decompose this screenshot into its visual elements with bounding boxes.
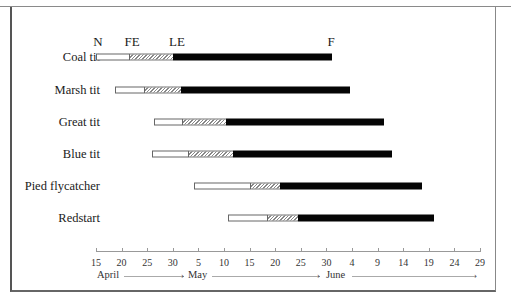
june-arrow-line: [352, 276, 476, 277]
april-arrow-line: [124, 276, 184, 277]
coal-tit-incubation-segment: [173, 54, 332, 61]
row-label-marsh-tit: Marsh tit: [55, 83, 100, 98]
marsh-tit-incubation-segment: [181, 87, 350, 94]
x-tick: [147, 248, 148, 252]
great-tit-incubation-segment: [226, 119, 384, 126]
month-label-june: June: [326, 269, 345, 280]
row-label-great-tit: Great tit: [59, 115, 100, 130]
may-arrow-head-icon: ›: [317, 270, 320, 280]
great-tit-nest-building-segment: [154, 119, 183, 126]
x-tick-label: 20: [270, 257, 280, 268]
pied-flycatcher-nest-building-segment: [194, 183, 251, 190]
x-tick-label: 25: [142, 257, 152, 268]
phase-label-le: LE: [169, 34, 185, 50]
x-tick: [454, 248, 455, 252]
redstart-laying-segment: [268, 215, 298, 222]
blue-tit-nest-building-segment: [152, 151, 189, 158]
x-tick-label: 15: [245, 257, 255, 268]
row-label-pied-flycatcher: Pied flycatcher: [25, 179, 100, 194]
marsh-tit-nest-building-segment: [115, 87, 145, 94]
phase-label-n: N: [93, 34, 102, 50]
blue-tit-incubation-segment: [233, 151, 392, 158]
x-tick: [403, 248, 404, 252]
marsh-tit-laying-segment: [145, 87, 181, 94]
month-label-april: April: [97, 269, 119, 280]
x-tick-label: 29: [475, 257, 485, 268]
row-label-coal-tit: Coal tit: [63, 50, 100, 65]
x-tick-label: 25: [296, 257, 306, 268]
coal-tit-laying-segment: [130, 54, 173, 61]
x-tick: [326, 248, 327, 252]
x-tick-label: 20: [117, 257, 127, 268]
phase-label-f: F: [327, 34, 334, 50]
x-tick: [352, 248, 353, 252]
blue-tit-laying-segment: [189, 151, 233, 158]
x-tick-label: 10: [219, 257, 229, 268]
x-tick-label: 15: [91, 257, 101, 268]
x-tick: [378, 248, 379, 252]
x-tick-label: 19: [424, 257, 434, 268]
x-tick: [198, 248, 199, 252]
chart-plot-area: N FE LE F Coal tit Marsh tit Great tit B…: [0, 0, 511, 308]
pied-flycatcher-laying-segment: [251, 183, 280, 190]
row-label-blue-tit: Blue tit: [63, 147, 100, 162]
phase-label-fe: FE: [124, 34, 139, 50]
great-tit-laying-segment: [183, 119, 226, 126]
x-tick: [173, 248, 174, 252]
may-arrow-line: [212, 276, 320, 277]
x-tick: [275, 248, 276, 252]
x-tick: [480, 248, 481, 252]
redstart-nest-building-segment: [228, 215, 268, 222]
x-tick-label: 14: [398, 257, 408, 268]
x-tick-label: 5: [196, 257, 201, 268]
x-tick-label: 30: [321, 257, 331, 268]
pied-flycatcher-incubation-segment: [280, 183, 422, 190]
x-tick-label: 9: [375, 257, 380, 268]
redstart-incubation-segment: [298, 215, 434, 222]
x-axis-line: [96, 251, 480, 252]
x-tick-label: 4: [350, 257, 355, 268]
x-tick: [429, 248, 430, 252]
month-label-may: May: [188, 269, 207, 280]
x-tick: [96, 248, 97, 252]
x-tick: [250, 248, 251, 252]
x-tick: [224, 248, 225, 252]
june-arrow-head-icon: ›: [474, 270, 477, 280]
coal-tit-nest-building-segment: [96, 54, 130, 61]
x-tick: [122, 248, 123, 252]
x-tick-label: 30: [168, 257, 178, 268]
x-tick-label: 24: [449, 257, 459, 268]
april-arrow-head-icon: ›: [181, 270, 184, 280]
row-label-redstart: Redstart: [58, 211, 100, 226]
x-tick: [301, 248, 302, 252]
